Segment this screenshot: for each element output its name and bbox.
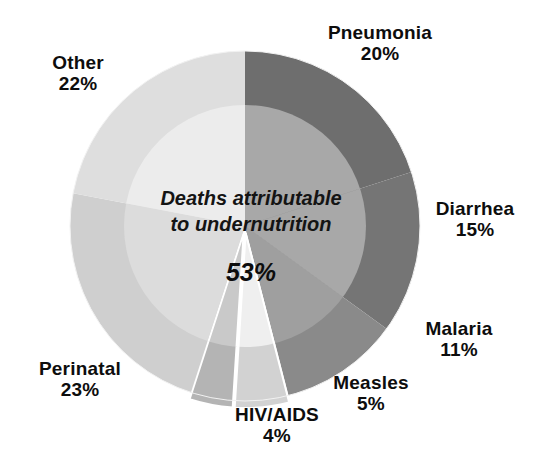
slice-label-malaria-pct: 11% bbox=[400, 339, 518, 360]
slice-label-pneumonia: Pneumonia 20% bbox=[305, 22, 455, 65]
slice-label-other-pct: 22% bbox=[18, 73, 138, 94]
slice-label-diarrhea: Diarrhea 15% bbox=[416, 198, 534, 241]
slice-label-measles-name: Measles bbox=[312, 372, 430, 393]
slice-label-pneumonia-name: Pneumonia bbox=[305, 22, 455, 43]
slice-label-perinatal: Perinatal 23% bbox=[10, 358, 150, 401]
center-annotation-value: 53% bbox=[128, 258, 374, 287]
slice-label-malaria: Malaria 11% bbox=[400, 318, 518, 361]
slice-label-diarrhea-name: Diarrhea bbox=[416, 198, 534, 219]
slice-label-malaria-name: Malaria bbox=[400, 318, 518, 339]
slice-label-other: Other 22% bbox=[18, 52, 138, 95]
pie-chart: Other 22% Pneumonia 20% Diarrhea 15% Mal… bbox=[0, 0, 547, 476]
slice-label-perinatal-pct: 23% bbox=[10, 379, 150, 400]
center-annotation-text: Deaths attributable to undernutrition bbox=[128, 186, 374, 237]
slice-label-other-name: Other bbox=[18, 52, 138, 73]
slice-label-diarrhea-pct: 15% bbox=[416, 219, 534, 240]
slice-label-perinatal-name: Perinatal bbox=[10, 358, 150, 379]
slice-label-hivaids-name: HIV/AIDS bbox=[212, 404, 342, 425]
slice-label-hivaids-pct: 4% bbox=[212, 425, 342, 446]
slice-label-pneumonia-pct: 20% bbox=[305, 43, 455, 64]
slice-label-hivaids: HIV/AIDS 4% bbox=[212, 404, 342, 447]
